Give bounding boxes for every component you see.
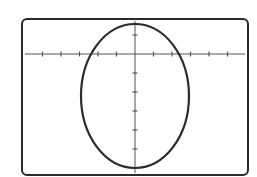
calculator-screen: Graphing calculator display showing an e…: [0, 0, 257, 177]
plot-svg: [0, 0, 257, 177]
